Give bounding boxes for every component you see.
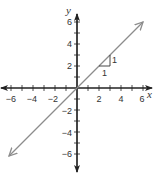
svg-text:−6: −6 (62, 149, 72, 159)
slope-run-label: 1 (102, 68, 107, 78)
svg-text:4: 4 (67, 39, 72, 49)
svg-text:−2: −2 (62, 106, 72, 116)
svg-text:4: 4 (118, 94, 123, 104)
svg-text:2: 2 (67, 61, 72, 71)
svg-text:−4: −4 (62, 128, 72, 138)
svg-text:6: 6 (67, 17, 72, 27)
svg-text:−2: −2 (48, 94, 58, 104)
svg-text:−6: −6 (6, 94, 16, 104)
y-axis-label: y (65, 4, 71, 16)
x-axis-label: x (146, 88, 152, 100)
svg-text:6: 6 (139, 94, 144, 104)
line-y-equals-x-lower (9, 88, 77, 156)
coordinate-plane-chart: −6 −4 −2 2 4 6 6 4 2 −2 −4 −6 x y 1 1 (0, 0, 156, 177)
svg-text:2: 2 (96, 94, 101, 104)
svg-text:−4: −4 (27, 94, 37, 104)
slope-rise-label: 1 (112, 55, 117, 65)
